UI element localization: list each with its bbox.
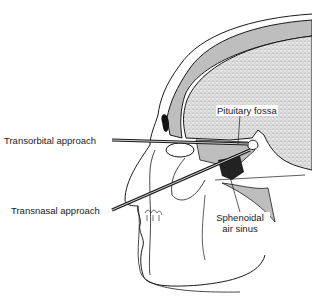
orbit: [166, 143, 194, 157]
teeth: [145, 210, 162, 221]
mandible-ramus: [202, 195, 205, 260]
skull-illustration: [0, 0, 312, 300]
label-sphenoidal-line2: air sinus: [211, 223, 269, 234]
skull-diagram: Pituitary fossa Transorbital approach Tr…: [0, 0, 312, 300]
maxilla-outline: [149, 150, 155, 275]
pituitary-fossa-shape: [248, 140, 258, 149]
label-pituitary-fossa: Pituitary fossa: [216, 105, 278, 116]
zygoma-outline: [172, 158, 205, 200]
label-transnasal-approach: Transnasal approach: [11, 205, 100, 216]
label-transorbital-approach: Transorbital approach: [4, 135, 96, 146]
label-sphenoidal-air-sinus: Sphenoidal air sinus: [210, 212, 270, 234]
label-sphenoidal-line1: Sphenoidal: [211, 212, 269, 223]
